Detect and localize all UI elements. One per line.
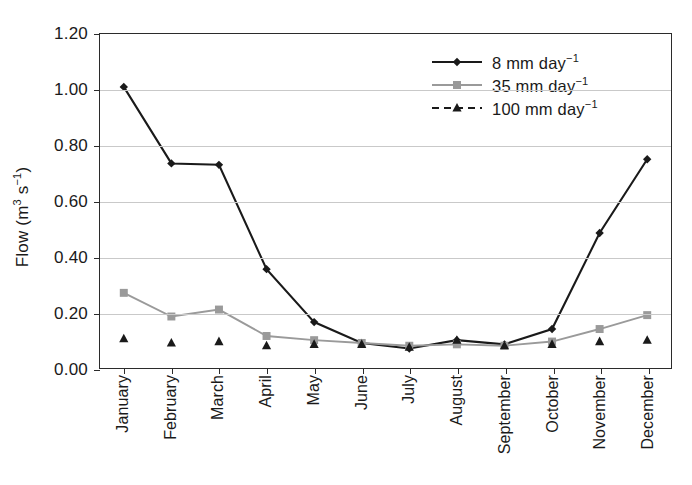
legend-swatch (430, 98, 484, 118)
legend-sample-square (430, 75, 484, 95)
gridline (100, 202, 671, 203)
y-axis-tick-label: 1.20 (36, 25, 88, 42)
triangle-marker (595, 337, 604, 346)
y-axis-tick-mark (94, 34, 100, 35)
x-axis-tick-label-text: October (544, 375, 562, 433)
legend-label-exponent: −1 (566, 52, 579, 64)
gridline (100, 90, 671, 91)
diamond-marker (453, 58, 461, 66)
x-axis-tick-label-text: May (305, 375, 323, 406)
y-axis-title-sup-minus1: −1 (11, 173, 23, 186)
square-marker (596, 325, 604, 333)
legend-label-text: 8 mm day (492, 53, 566, 71)
triangle-marker (214, 337, 223, 346)
y-axis-tick-label: 0.60 (36, 193, 88, 210)
y-axis-title: Flow (m3 s−1) (0, 37, 34, 397)
x-axis-tick-label: December (638, 369, 658, 481)
y-axis-tick-label: 1.00 (36, 81, 88, 98)
gridline (100, 258, 671, 259)
legend-label: 8 mm day−1 (484, 52, 579, 73)
y-axis-tick-label: 0.00 (36, 361, 88, 378)
plot-area: 8 mm day−135 mm day−1100 mm day−1 (99, 33, 672, 369)
legend-label-text: 35 mm day (492, 76, 575, 94)
legend-sample-diamond (430, 52, 484, 72)
y-axis-title-mid: s (13, 186, 32, 200)
square-marker (263, 332, 271, 340)
y-axis-title-prefix: Flow (m (13, 205, 32, 267)
y-axis-tick-label: 0.40 (36, 249, 88, 266)
x-axis-tick-label: January (113, 369, 133, 481)
x-axis-tick-label: March (208, 369, 228, 481)
gridline (100, 146, 671, 147)
diamond-marker (548, 325, 556, 333)
square-marker (120, 289, 128, 297)
x-axis-tick-label-text: August (448, 375, 466, 425)
x-axis-tick-label: November (590, 369, 610, 481)
legend-label-exponent: −1 (585, 98, 598, 110)
legend-item[interactable]: 35 mm day−1 (430, 74, 665, 96)
square-marker (215, 306, 223, 314)
triangle-marker (119, 334, 128, 343)
y-axis-tick-labels: 0.000.200.400.600.801.001.20 (36, 0, 88, 485)
legend-label-exponent: −1 (575, 75, 588, 87)
square-marker (453, 81, 461, 89)
x-axis-tick-label: July (399, 369, 419, 481)
legend-sample-triangle (430, 98, 484, 118)
gridline (100, 314, 671, 315)
triangle-marker (262, 341, 271, 350)
x-axis-tick-label-text: June (353, 375, 371, 410)
legend-swatch (430, 75, 484, 95)
x-axis-tick-label: October (543, 369, 563, 481)
chart-legend: 8 mm day−135 mm day−1100 mm day−1 (430, 51, 665, 120)
y-axis-tick-label: 0.80 (36, 137, 88, 154)
x-axis-tick-label: February (161, 369, 181, 481)
legend-item[interactable]: 100 mm day−1 (430, 97, 665, 119)
square-marker (643, 311, 651, 319)
y-axis-title-sup-3: 3 (11, 199, 23, 205)
x-axis-tick-label: August (447, 369, 467, 481)
x-axis-tick-label-text: January (114, 375, 132, 433)
x-axis-tick-label-text: March (209, 375, 227, 420)
x-axis-tick-labels: JanuaryFebruaryMarchAprilMayJuneJulyAugu… (99, 369, 672, 485)
y-axis-title-suffix: ) (13, 167, 32, 173)
x-axis-tick-label-text: February (162, 375, 180, 440)
legend-label: 35 mm day−1 (484, 75, 588, 96)
legend-label: 100 mm day−1 (484, 98, 598, 119)
legend-swatch (430, 52, 484, 72)
legend-item[interactable]: 8 mm day−1 (430, 51, 665, 73)
flow-line-chart: Flow (m3 s−1) 0.000.200.400.600.801.001.… (0, 0, 692, 485)
series-line (124, 87, 647, 349)
triangle-marker (643, 335, 652, 344)
triangle-marker (167, 338, 176, 347)
series-line (124, 293, 647, 346)
x-axis-tick-label-text: December (639, 375, 657, 450)
y-axis-tick-label: 0.20 (36, 305, 88, 322)
x-axis-tick-label: June (352, 369, 372, 481)
x-axis-tick-label-text: September (496, 375, 514, 454)
x-axis-tick-label: April (256, 369, 276, 481)
x-axis-tick-label-text: April (257, 375, 275, 408)
x-axis-tick-label-text: November (591, 375, 609, 450)
x-axis-tick-label: September (495, 369, 515, 481)
diamond-marker (215, 161, 223, 169)
x-axis-tick-label: May (304, 369, 324, 481)
x-axis-tick-label-text: July (400, 375, 418, 404)
series-2 (120, 289, 651, 350)
legend-label-text: 100 mm day (492, 99, 585, 117)
